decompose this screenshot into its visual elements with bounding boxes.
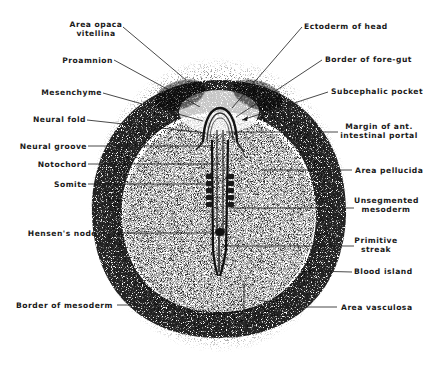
label-line: streak xyxy=(354,245,398,254)
label-primitive-streak: Primitive streak xyxy=(354,236,398,254)
label-line: Unsegmented xyxy=(354,196,418,205)
label-line: Area opaca xyxy=(68,20,124,29)
label-line: Neural groove xyxy=(20,142,87,151)
label-line: intestinal portal xyxy=(338,131,420,140)
label-mesenchyme: Mesenchyme xyxy=(41,88,102,97)
label-somite: Somite xyxy=(54,180,87,189)
label-line: Neural fold xyxy=(33,115,86,124)
area-pellucida-region xyxy=(123,115,315,315)
label-line: Proamnion xyxy=(62,56,113,65)
label-line: Hensen's node xyxy=(28,229,97,238)
label-notochord: Notochord xyxy=(38,160,87,169)
label-neural-groove: Neural groove xyxy=(20,142,87,151)
label-line: Ectoderm of head xyxy=(304,22,388,31)
label-line: Area pellucida xyxy=(355,166,423,175)
label-hensens-node: Hensen's node xyxy=(28,229,97,238)
label-margin-ant-intestinal-portal: Margin of ant. intestinal portal xyxy=(338,122,420,140)
label-line: vitellina xyxy=(68,29,124,38)
label-line: Mesenchyme xyxy=(41,88,102,97)
label-subcephalic-pocket: Subcephalic pocket xyxy=(331,87,423,96)
label-line: Margin of ant. xyxy=(338,122,420,131)
embryo-diagram: Area opaca vitellina Proamnion Mesenchym… xyxy=(0,0,439,367)
label-proamnion: Proamnion xyxy=(62,56,113,65)
label-line: Area vasculosa xyxy=(341,303,413,312)
blood-island-mark xyxy=(308,269,312,273)
hensens-node-mark xyxy=(215,228,225,236)
label-border-of-mesoderm: Border of mesoderm xyxy=(16,301,113,310)
label-line: mesoderm xyxy=(354,205,418,214)
label-blood-island: Blood island xyxy=(354,267,413,276)
label-line: Primitive xyxy=(354,236,398,245)
label-ectoderm-of-head: Ectoderm of head xyxy=(304,22,388,31)
label-area-vasculosa: Area vasculosa xyxy=(341,303,413,312)
label-border-of-fore-gut: Border of fore-gut xyxy=(325,55,412,64)
label-line: Border of mesoderm xyxy=(16,301,113,310)
label-area-opaca-vitellina: Area opaca vitellina xyxy=(68,20,124,38)
label-line: Subcephalic pocket xyxy=(331,87,423,96)
label-line: Notochord xyxy=(38,160,87,169)
label-line: Border of fore-gut xyxy=(325,55,412,64)
label-line: Blood island xyxy=(354,267,413,276)
label-unsegmented-mesoderm: Unsegmented mesoderm xyxy=(354,196,418,214)
label-neural-fold: Neural fold xyxy=(33,115,86,124)
label-line: Somite xyxy=(54,180,87,189)
label-area-pellucida: Area pellucida xyxy=(355,166,423,175)
